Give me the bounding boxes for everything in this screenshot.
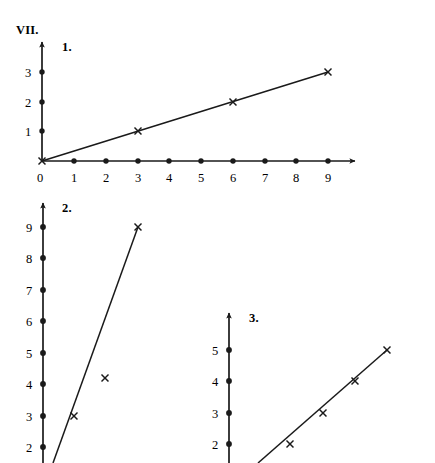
svg-text:4: 4 [166,171,173,185]
svg-text:3: 3 [212,407,218,421]
plot-2-data-markers [71,224,142,420]
svg-text:5: 5 [26,347,32,361]
plot-2-data-line [53,227,138,463]
svg-text:8: 8 [293,171,299,185]
plot-2-y-tick-labels: 9 8 7 6 5 4 3 2 [26,221,33,455]
svg-text:4: 4 [212,375,219,389]
svg-text:2: 2 [26,441,32,455]
svg-text:3: 3 [25,66,31,80]
svg-text:0: 0 [37,171,43,185]
plot-1-data-line [42,72,328,161]
svg-text:7: 7 [262,171,268,185]
svg-text:3: 3 [26,410,32,424]
plot-3-data-markers [287,347,391,448]
svg-text:2: 2 [212,438,218,452]
plot-2-group: 9 8 7 6 5 4 3 2 [26,203,142,463]
svg-text:5: 5 [198,171,204,185]
svg-text:9: 9 [26,221,32,235]
svg-text:5: 5 [212,344,218,358]
svg-text:1: 1 [71,171,77,185]
plot-1-x-tick-labels: 0 1 2 3 4 5 6 7 8 9 [37,171,331,185]
svg-text:4: 4 [26,378,33,392]
plot-3-data-line [258,350,387,463]
svg-text:2: 2 [25,96,31,110]
svg-text:2: 2 [103,171,109,185]
svg-text:9: 9 [325,171,331,185]
svg-text:6: 6 [26,315,32,329]
plot-1-group: 0 1 2 3 4 5 6 7 8 9 1 2 3 [25,42,355,185]
svg-text:1: 1 [25,125,31,139]
plot-3-y-tick-labels: 5 4 3 2 [212,344,219,452]
figure-container: VII. 1. 2. 3. [0,0,435,463]
plots-canvas: 0 1 2 3 4 5 6 7 8 9 1 2 3 [0,0,435,463]
plot-3-group: 5 4 3 2 [212,313,391,463]
svg-text:8: 8 [26,252,32,266]
svg-text:7: 7 [26,284,32,298]
svg-text:3: 3 [135,171,141,185]
svg-text:6: 6 [230,171,236,185]
plot-1-y-tick-labels: 1 2 3 [25,66,31,139]
